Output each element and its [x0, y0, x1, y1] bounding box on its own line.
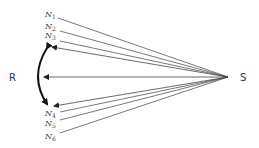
curved-arrow: [38, 48, 47, 104]
network-diagram: R S N1 N2 N3 N4 N5 N6: [0, 0, 259, 148]
node-label-n3: N3: [44, 31, 56, 41]
link-n1: [58, 18, 228, 77]
node-label-n5: N5: [44, 119, 56, 129]
node-label-n1: N1: [44, 10, 56, 20]
link-n5: [60, 77, 228, 120]
node-links: [58, 18, 228, 133]
link-n3: [60, 41, 228, 77]
receiver-label: R: [9, 72, 16, 83]
link-n6: [60, 77, 228, 133]
link-n4: [60, 77, 228, 112]
node-label-n4: N4: [44, 109, 56, 119]
node-labels: N1 N2 N3 N4 N5 N6: [44, 10, 56, 142]
arrow-s-to-lower: [54, 77, 228, 106]
link-n2: [60, 31, 228, 77]
source-label: S: [240, 72, 246, 83]
node-label-n6: N6: [44, 132, 56, 142]
arrow-s-to-upper: [52, 47, 228, 77]
